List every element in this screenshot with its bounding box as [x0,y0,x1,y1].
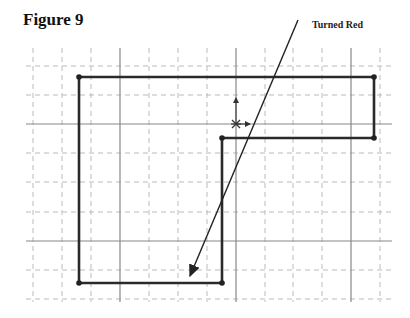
origin-marker-icon [231,98,250,128]
vertex-point[interactable] [371,135,377,141]
sketch-grid [26,48,392,302]
profile-vertices [76,74,377,286]
vertex-point[interactable] [219,280,225,286]
vertex-point[interactable] [76,74,82,80]
vertex-point[interactable] [219,135,225,141]
sketch-canvas [0,0,410,318]
vertex-point[interactable] [76,280,82,286]
callout-arrow [190,20,298,276]
vertex-point[interactable] [371,74,377,80]
sketch-profile[interactable] [79,77,374,283]
